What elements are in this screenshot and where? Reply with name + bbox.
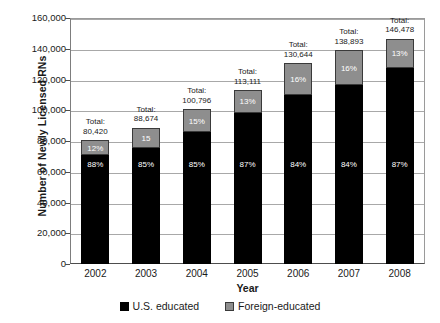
bar-segment-foreign-educated[interactable]: 16% [335, 50, 363, 84]
bar-group[interactable]: 85%15%Total: 100,796 [183, 109, 211, 264]
bar-segment-us-educated[interactable]: 85% [132, 148, 160, 264]
bar-segment-us-educated[interactable]: 88% [81, 155, 109, 264]
bar-label-foreign-percent: 13% [235, 97, 261, 106]
bar-segment-foreign-educated[interactable]: 15% [183, 109, 211, 132]
y-axis-tick-label: 160,000 [4, 13, 66, 23]
bar-segment-foreign-educated[interactable]: 13% [386, 39, 414, 68]
bars-layer: 88%12%Total: 80,42085%15Total: 88,67485%… [70, 18, 425, 264]
x-axis-title: Year [70, 282, 425, 294]
bar-label-us-percent: 85% [133, 160, 159, 169]
legend-item[interactable]: U.S. educated [120, 300, 200, 312]
y-axis-tick-label: 140,000 [4, 44, 66, 54]
bar-group[interactable]: 87%13%Total: 113,111 [234, 90, 262, 264]
bar-group[interactable]: 87%13%Total: 146,478 [386, 39, 414, 264]
bar-group[interactable]: 88%12%Total: 80,420 [81, 140, 109, 264]
bar-segment-us-educated[interactable]: 85% [183, 132, 211, 264]
legend-swatch-icon [120, 302, 129, 311]
legend-item[interactable]: Foreign-educated [225, 300, 320, 312]
bar-segment-us-educated[interactable]: 84% [284, 95, 312, 264]
bar-segment-foreign-educated[interactable]: 15 [132, 128, 160, 148]
x-axis-tick-label: 2008 [370, 268, 430, 279]
bar-group[interactable]: 84%16%Total: 130,644 [284, 63, 312, 264]
bar-group[interactable]: 85%15Total: 88,674 [132, 128, 160, 264]
bar-total-label: Total: 88,674 [114, 105, 178, 124]
y-axis-tick-label: 20,000 [4, 228, 66, 238]
bar-label-us-percent: 87% [387, 160, 413, 169]
bar-segment-us-educated[interactable]: 87% [386, 68, 414, 264]
bar-label-foreign-percent: 12% [82, 143, 108, 152]
bar-segment-foreign-educated[interactable]: 13% [234, 90, 262, 113]
bar-group[interactable]: 84%16%Total: 138,893 [335, 50, 363, 264]
bar-segment-foreign-educated[interactable]: 12% [81, 140, 109, 155]
legend-swatch-icon [225, 302, 234, 311]
bar-label-us-percent: 85% [184, 160, 210, 169]
y-axis-tick-mark [65, 264, 70, 265]
stacked-bar-chart: Number of Newly Licensed RNs 020,00040,0… [0, 0, 440, 323]
bar-label-us-percent: 87% [235, 160, 261, 169]
chart-legend: U.S. educatedForeign-educated [0, 300, 440, 312]
legend-label: Foreign-educated [238, 300, 320, 312]
bar-label-us-percent: 88% [82, 160, 108, 169]
y-axis-tick-label: 80,000 [4, 136, 66, 146]
bar-label-foreign-percent: 16% [285, 75, 311, 84]
bar-segment-us-educated[interactable]: 84% [335, 85, 363, 264]
bar-segment-foreign-educated[interactable]: 16% [284, 63, 312, 95]
y-axis-tick-label: 40,000 [4, 198, 66, 208]
bar-total-label: Total: 113,111 [216, 67, 280, 86]
bar-total-label: Total: 146,478 [368, 16, 432, 35]
bar-label-us-percent: 84% [285, 160, 311, 169]
y-axis-tick-label: 60,000 [4, 167, 66, 177]
bar-segment-us-educated[interactable]: 87% [234, 113, 262, 264]
y-axis-tick-label: 100,000 [4, 105, 66, 115]
y-axis-tick-label: 0 [4, 259, 66, 269]
legend-label: U.S. educated [133, 300, 200, 312]
bar-label-us-percent: 84% [336, 160, 362, 169]
bar-label-foreign-percent: 15% [184, 116, 210, 125]
bar-label-foreign-percent: 16% [336, 63, 362, 72]
y-axis-tick-label: 120,000 [4, 75, 66, 85]
bar-total-label: Total: 100,796 [165, 86, 229, 105]
bar-label-foreign-percent: 13% [387, 49, 413, 58]
bar-label-foreign-percent: 15 [133, 133, 159, 142]
